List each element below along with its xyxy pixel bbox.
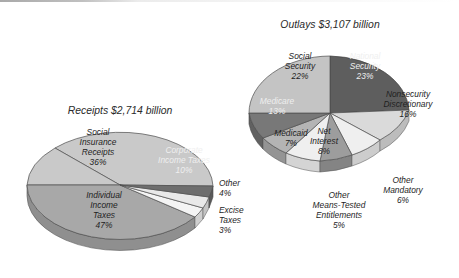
label-excise-pct: 3% [219,225,232,235]
left-pie-chart: Receipts $2,714 billion [27,105,244,250]
label-national-security-line2: Security [350,61,381,71]
label-net-interest-line2: Interest [310,136,339,146]
right-pie-chart: Outlays $3,107 billion [249,19,433,230]
label-social-insurance-line2: Insurance [80,137,117,147]
label-other-mandatory-line1: Other [393,175,415,185]
right-chart-title: Outlays $3,107 billion [280,19,380,30]
label-nonsecurity-line2: Discretionary [384,99,434,109]
label-means-tested-pct: 5% [333,220,346,230]
label-nonsecurity-line1: Nonsecurity [386,89,431,99]
label-individual-line2: Income [90,200,118,210]
label-social-security-pct: 22% [291,71,309,81]
label-other-pct: 4% [219,188,232,198]
label-social-insurance-pct: 36% [90,157,107,167]
pie-charts-figure: Receipts $2,714 billion [0,0,459,278]
label-net-interest-pct: 8% [318,146,331,156]
label-corporate-line1: Corporate [165,145,203,155]
left-chart-title: Receipts $2,714 billion [68,105,173,116]
label-means-tested-line1: Other [329,190,351,200]
label-social-security-line1: Social [289,51,313,61]
label-excise-line1: Excise [219,205,244,215]
label-national-security-pct: 23% [356,71,374,81]
label-excise-line2: Taxes [219,215,242,225]
label-corporate-pct: 10% [176,165,193,175]
label-other-mandatory-pct: 6% [397,195,410,205]
label-social-insurance-line1: Social [87,127,111,137]
label-individual-line1: Individual [86,190,123,200]
label-means-tested-line2: Means-Tested [313,200,366,210]
label-individual-line3: Taxes [93,210,116,220]
label-medicaid-pct: 7% [285,138,298,148]
label-social-insurance-line3: Receipts [82,147,115,157]
label-medicare-line1: Medicare [260,96,295,106]
label-individual-pct: 47% [96,220,113,230]
label-nonsecurity-pct: 16% [400,109,417,119]
label-other-line1: Other [219,178,241,188]
label-means-tested-line3: Entitlements [316,210,363,220]
label-net-interest-line1: Net [317,126,331,136]
label-other-mandatory-line2: Mandatory [383,185,423,195]
label-corporate-line2: Income Taxes [158,155,211,165]
label-social-security-line2: Security [285,61,316,71]
label-medicaid-line1: Medicaid [274,128,308,138]
label-medicare-pct: 13% [269,106,286,116]
label-national-security-line1: National [350,51,382,61]
